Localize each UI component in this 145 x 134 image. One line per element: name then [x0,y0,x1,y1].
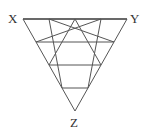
vertex-label-y: Y [130,11,140,26]
vertex-label-z: Z [70,115,78,130]
grid-line-diagonal-right [49,19,62,88]
triangle-grid-diagram: X Y Z [0,0,145,134]
vertex-label-x: X [8,11,18,26]
grid-line-diagonal-left [88,19,101,88]
triangle-grid-lines [23,19,127,111]
